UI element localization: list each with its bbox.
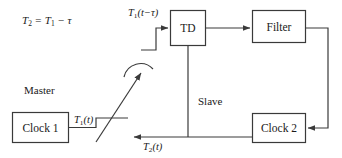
connector-filter-to-clock2 — [306, 28, 329, 128]
connector-delayed-to-td — [141, 28, 168, 50]
block-label-td-text: TD — [180, 22, 195, 34]
region-label-master-text: Master — [24, 84, 55, 96]
signal-arc-icon — [124, 64, 153, 77]
block-label-td[interactable]: TD — [170, 10, 206, 46]
signal-label-t2: T2(t) — [143, 141, 162, 154]
block-label-clock1[interactable]: Clock 1 — [12, 112, 69, 143]
block-label-filter[interactable]: Filter — [252, 10, 306, 43]
region-label-slave: Slave — [198, 95, 222, 107]
clock-sync-diagram: T2 = T1 − τ TD Filter Clock 1 Clock 2 Ma… — [0, 0, 342, 158]
block-label-clock1-text: Clock 1 — [22, 122, 58, 134]
connector-air-propagation-arrow — [96, 73, 141, 142]
signal-label-t2-text: T2(t) — [143, 141, 162, 152]
signal-label-t1-text: T1(t) — [74, 114, 93, 125]
equation-t2-definition: T2 = T1 − τ — [22, 14, 72, 28]
block-label-filter-text: Filter — [267, 21, 292, 33]
signal-label-t1: T1(t) — [74, 114, 93, 127]
signal-label-t1-delayed: T1(t−τ) — [128, 7, 158, 20]
block-label-clock2-text: Clock 2 — [261, 122, 297, 134]
signal-label-t1-delayed-text: T1(t−τ) — [128, 7, 158, 18]
block-label-clock2[interactable]: Clock 2 — [252, 113, 306, 143]
equation-text: T2 = T1 − τ — [22, 14, 72, 26]
region-label-master: Master — [24, 84, 55, 96]
region-label-slave-text: Slave — [198, 95, 222, 107]
